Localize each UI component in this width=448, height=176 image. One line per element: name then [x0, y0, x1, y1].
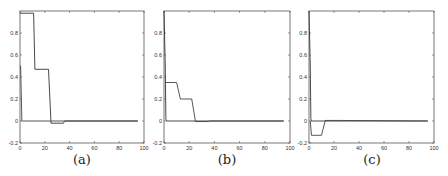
y-tick-label: 0.6 [299, 52, 307, 58]
y-tick-label: 0 [304, 118, 307, 124]
x-tick-label: 20 [331, 145, 337, 151]
x-tick-label: 40 [356, 145, 362, 151]
y-tick-label: 0.8 [299, 30, 307, 36]
axes-frame [309, 11, 434, 143]
chart-panel-c: 020406080100-0.200.20.40.60.8 (c) [0, 0, 448, 176]
y-tick-label: -0.2 [298, 140, 307, 146]
y-tick-label: 0.2 [299, 96, 307, 102]
x-tick-label: 0 [307, 145, 310, 151]
caption-c: (c) [352, 152, 392, 167]
x-tick-label: 100 [429, 145, 438, 151]
line-chart-c: 020406080100-0.200.20.40.60.8 [0, 0, 448, 176]
y-tick-label: 0.4 [299, 74, 307, 80]
series-line-2 [310, 120, 428, 135]
x-tick-label: 60 [381, 145, 387, 151]
series-line-1 [309, 11, 428, 121]
x-tick-label: 80 [406, 145, 412, 151]
